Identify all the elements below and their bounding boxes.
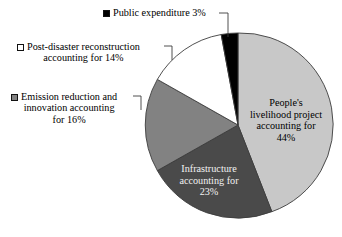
legend-label-post-disaster: Post-disaster reconstruction accounting … — [27, 41, 140, 64]
slice-label-line: People's — [241, 97, 331, 109]
slice-label-line: 44% — [241, 132, 331, 144]
slice-label-line: 23% — [163, 186, 255, 198]
legend-item-public-expenditure[interactable]: Public expenditure 3% — [103, 7, 206, 18]
leader-line-emission-reduction — [133, 96, 141, 110]
leader-line-post-disaster — [164, 46, 172, 60]
legend-swatch-public-expenditure — [103, 10, 110, 17]
legend-line: Public expenditure 3% — [113, 7, 206, 18]
legend-item-post-disaster[interactable]: Post-disaster reconstruction accounting … — [17, 41, 140, 64]
legend-label-public-expenditure: Public expenditure 3% — [113, 7, 206, 18]
legend-line: for 16% — [21, 114, 117, 125]
slice-label-line: accounting for — [163, 175, 255, 187]
legend-line: accounting for 14% — [27, 52, 140, 63]
slice-label-line: livelihood project — [241, 109, 331, 121]
legend-line: Emission reduction and — [21, 91, 117, 102]
legend-swatch-post-disaster — [17, 44, 24, 51]
legend-item-emission-reduction[interactable]: Emission reduction and innovation accoun… — [11, 91, 117, 125]
legend-swatch-emission-reduction — [11, 94, 18, 101]
legend-label-emission-reduction: Emission reduction and innovation accoun… — [21, 91, 117, 125]
slice-label-line: accounting for — [241, 120, 331, 132]
slice-label-line: Infrastructure — [163, 163, 255, 175]
legend-line: Post-disaster reconstruction — [27, 41, 140, 52]
pie-chart-figure: Public expenditure 3% Post-disaster reco… — [0, 0, 342, 237]
slice-label-livelihood: People's livelihood project accounting f… — [241, 97, 331, 144]
slice-label-infrastructure: Infrastructure accounting for 23% — [163, 163, 255, 198]
legend-line: innovation accounting — [21, 102, 117, 113]
